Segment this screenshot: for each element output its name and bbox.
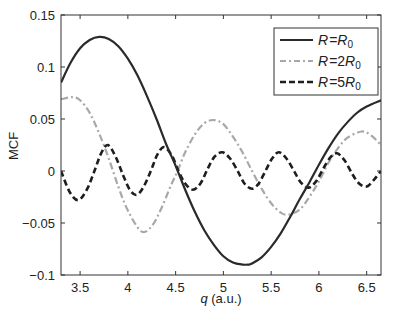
y-tick-label: −0.05 bbox=[22, 216, 55, 231]
x-tick-label: 4.5 bbox=[167, 280, 185, 295]
x-tick-label: 6 bbox=[315, 280, 322, 295]
mcf-line-chart: 3.544.555.566.5 −0.1−0.0500.050.10.15 q … bbox=[0, 0, 396, 319]
legend-label: R=2R0 bbox=[318, 53, 361, 71]
x-tick-label: 4 bbox=[124, 280, 131, 295]
y-tick-label: −0.1 bbox=[29, 268, 55, 283]
x-axis-label: q (a.u.) bbox=[200, 291, 241, 306]
y-tick-label: 0.05 bbox=[30, 112, 55, 127]
x-tick-label: 3.5 bbox=[71, 280, 89, 295]
y-tick-label: 0.1 bbox=[37, 60, 55, 75]
legend: R=R0R=2R0R=5R0 bbox=[274, 28, 378, 95]
y-axis-label: MCF bbox=[6, 132, 21, 160]
y-tick-label: 0 bbox=[48, 164, 55, 179]
x-tick-label: 5.5 bbox=[262, 280, 280, 295]
x-tick-label: 6.5 bbox=[358, 280, 376, 295]
legend-label: R=5R0 bbox=[318, 74, 361, 92]
y-tick-label: 0.15 bbox=[30, 8, 55, 23]
